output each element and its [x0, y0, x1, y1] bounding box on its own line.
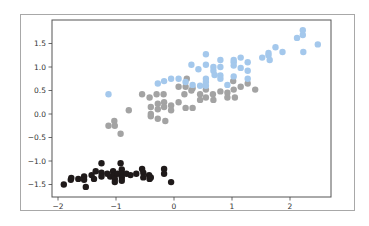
data-point	[168, 107, 174, 113]
data-point	[75, 176, 81, 182]
series-cluster-0	[61, 160, 175, 190]
data-point	[133, 171, 139, 177]
data-point	[148, 104, 154, 110]
data-point	[112, 123, 118, 129]
data-point	[140, 174, 146, 180]
data-point	[182, 105, 188, 111]
data-point	[238, 54, 244, 60]
data-point	[267, 57, 273, 63]
data-point	[127, 172, 133, 178]
data-point	[105, 91, 111, 97]
data-point	[81, 177, 87, 183]
data-point	[217, 88, 223, 94]
data-point	[210, 97, 216, 103]
data-point	[203, 94, 209, 100]
data-point	[217, 57, 223, 63]
data-point	[162, 118, 168, 124]
data-points	[61, 27, 321, 190]
x-tick-label: 0	[172, 202, 177, 211]
data-point	[155, 80, 161, 86]
data-point	[279, 49, 285, 55]
data-point	[98, 173, 104, 179]
data-point	[300, 32, 306, 38]
data-point	[245, 68, 251, 74]
data-point	[211, 72, 217, 78]
data-point	[217, 64, 223, 70]
data-point	[197, 91, 203, 97]
x-tick-label: −2	[52, 202, 63, 211]
data-point	[203, 51, 209, 57]
data-point	[168, 179, 174, 185]
data-point	[315, 41, 321, 47]
data-point	[146, 94, 152, 100]
data-point	[168, 76, 174, 82]
y-tick-label: −0.5	[28, 133, 46, 142]
data-point	[197, 97, 203, 103]
data-point	[83, 184, 89, 190]
data-point	[126, 107, 132, 113]
x-tick-label: −1	[110, 202, 121, 211]
data-point	[300, 49, 306, 55]
y-axis: 1.51.00.50.0−0.5−1.0−1.5	[28, 39, 52, 189]
data-point	[161, 104, 167, 110]
y-tick-label: −1.0	[28, 157, 46, 166]
data-point	[188, 61, 194, 67]
data-point	[238, 84, 244, 90]
series-cluster-1	[105, 76, 258, 137]
data-point	[139, 91, 145, 97]
data-point	[117, 131, 123, 137]
data-point	[155, 116, 161, 122]
data-point	[91, 176, 97, 182]
data-point	[259, 54, 265, 60]
data-point	[245, 76, 251, 82]
y-tick-label: 0.0	[34, 110, 46, 119]
x-axis: −2−1012	[52, 197, 292, 211]
data-point	[155, 106, 161, 112]
data-point	[197, 83, 203, 89]
data-point	[175, 76, 181, 82]
data-point	[181, 91, 187, 97]
data-point	[189, 82, 195, 88]
data-point	[224, 94, 230, 100]
data-point	[231, 86, 237, 92]
data-point	[160, 91, 166, 97]
data-point	[231, 73, 237, 79]
data-point	[272, 44, 278, 50]
data-point	[217, 76, 223, 82]
data-point	[161, 78, 167, 84]
data-point	[119, 178, 125, 184]
data-point	[155, 101, 161, 107]
data-point	[68, 175, 74, 181]
data-point	[252, 86, 258, 92]
data-point	[195, 66, 201, 72]
data-point	[148, 113, 154, 119]
data-point	[224, 82, 230, 88]
data-point	[175, 99, 181, 105]
data-point	[105, 123, 111, 129]
data-point	[245, 59, 251, 65]
y-tick-label: 1.5	[34, 39, 46, 48]
data-point	[203, 83, 209, 89]
data-point	[189, 105, 195, 111]
y-tick-label: 1.0	[34, 63, 46, 72]
data-point	[161, 171, 167, 177]
data-point	[238, 65, 244, 71]
x-tick-label: 1	[230, 202, 235, 211]
data-point	[153, 91, 159, 97]
data-point	[175, 84, 181, 90]
series-cluster-2	[105, 27, 321, 97]
data-point	[182, 79, 188, 85]
data-point	[294, 35, 300, 41]
data-point	[112, 179, 118, 185]
data-point	[117, 160, 123, 166]
data-point	[231, 62, 237, 68]
data-point	[148, 174, 154, 180]
y-tick-label: 0.5	[34, 86, 46, 95]
scatter-plot: −2−1012 1.51.00.50.0−0.5−1.0−1.5	[0, 0, 369, 226]
data-point	[98, 160, 104, 166]
data-point	[203, 61, 209, 67]
y-tick-label: −1.5	[28, 180, 46, 189]
data-point	[61, 181, 67, 187]
data-point	[93, 168, 99, 174]
x-tick-label: 2	[288, 202, 293, 211]
